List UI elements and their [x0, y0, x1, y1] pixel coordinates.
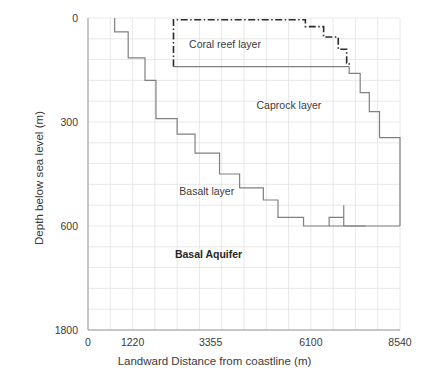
x-tick-label-0: 0	[85, 336, 91, 348]
plot-annotation-basalt-layer: Basalt layer	[179, 185, 234, 197]
x-axis-title: Landward Distance from coastline (m)	[0, 355, 429, 367]
y-tick-label-1800: 1800	[34, 324, 78, 336]
y-tick-label-0: 0	[34, 12, 78, 24]
x-tick-label-1220: 1220	[121, 336, 144, 348]
series-caprock-base-seaward-descending-front	[329, 205, 366, 226]
plot-annotation-basal-aquifer: Basal Aquifer	[175, 248, 242, 260]
x-tick-label-8540: 8540	[388, 336, 411, 348]
series-caprock-right-flank-stepped-descent	[349, 67, 400, 226]
plot-annotation-coral-reef-layer: Coral reef layer	[189, 38, 261, 50]
y-tick-label-600: 600	[34, 220, 78, 232]
plot-annotation-caprock-layer: Caprock layer	[257, 99, 322, 111]
x-tick-label-6100: 6100	[299, 336, 322, 348]
y-tick-label-300: 300	[34, 116, 78, 128]
x-tick-label-3355: 3355	[199, 336, 222, 348]
y-axis-title: Depth below sea level (m)	[33, 63, 45, 293]
gridlines	[88, 18, 400, 330]
geologic-cross-section-chart: Depth below sea level (m) Landward Dista…	[0, 0, 429, 378]
